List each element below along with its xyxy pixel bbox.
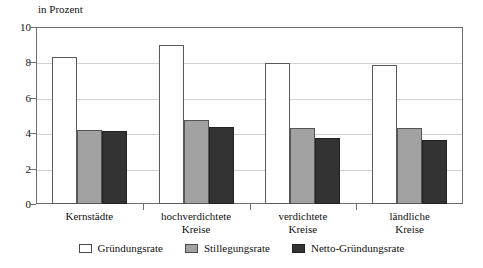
legend-item-stillegungsrate: Stillegungsrate <box>185 242 270 255</box>
legend-label-gruendungsrate: Gründungsrate <box>98 242 163 255</box>
x-axis-labels: Kernstädte hochverdichtete Kreise verdic… <box>36 210 463 244</box>
x-label-line-2: Kreise <box>356 223 463 236</box>
legend-swatch-icon-stillegungsrate <box>185 244 198 253</box>
x-label-line-1: verdichtete <box>250 210 357 223</box>
legend-item-netto-gruendungsrate: Netto-Gründungsrate <box>292 242 404 255</box>
x-label-laendliche-kreise: ländliche Kreise <box>356 210 463 236</box>
bar-group-laendliche-kreise <box>356 27 463 204</box>
legend-item-gruendungsrate: Gründungsrate <box>79 242 163 255</box>
bar-group-hochverdichtete-kreise <box>143 27 250 204</box>
legend-label-netto-gruendungsrate: Netto-Gründungsrate <box>311 242 404 255</box>
bar-group-kernstaedte <box>36 27 143 204</box>
x-label-line-2: Kreise <box>143 223 250 236</box>
y-axis: 10 8 6 4 2 0 <box>0 0 36 210</box>
legend: Gründungsrate Stillegungsrate Netto-Grün… <box>0 242 483 255</box>
bar-stillegungsrate <box>397 128 422 204</box>
bar-stillegungsrate <box>290 128 315 204</box>
bar-gruendungsrate <box>372 65 397 204</box>
x-label-line-1: ländliche <box>356 210 463 223</box>
x-label-hochverdichtete-kreise: hochverdichtete Kreise <box>143 210 250 236</box>
bar-gruendungsrate <box>265 63 290 204</box>
x-label-line-1: hochverdichtete <box>143 210 250 223</box>
y-tick-mark-0 <box>30 204 36 205</box>
legend-label-stillegungsrate: Stillegungsrate <box>204 242 270 255</box>
bar-netto-gruendungsrate <box>102 131 127 204</box>
bar-netto-gruendungsrate <box>422 140 447 204</box>
bar-stillegungsrate <box>77 130 102 204</box>
x-label-line-1: Kernstädte <box>36 210 143 223</box>
legend-swatch-icon-netto-gruendungsrate <box>292 244 305 253</box>
x-label-kernstaedte: Kernstädte <box>36 210 143 223</box>
bar-gruendungsrate <box>159 45 184 204</box>
bar-netto-gruendungsrate <box>315 138 340 204</box>
bar-group-verdichtete-kreise <box>250 27 357 204</box>
bar-chart: in Prozent 10 8 6 4 2 0 <box>0 0 483 268</box>
bar-gruendungsrate <box>52 57 77 204</box>
bar-groups <box>36 27 463 204</box>
y-axis-unit-label: in Prozent <box>38 2 83 16</box>
legend-swatch-icon-gruendungsrate <box>79 244 92 253</box>
bar-netto-gruendungsrate <box>209 127 234 204</box>
x-label-line-2: Kreise <box>250 223 357 236</box>
bar-stillegungsrate <box>184 120 209 204</box>
x-label-verdichtete-kreise: verdichtete Kreise <box>250 210 357 236</box>
